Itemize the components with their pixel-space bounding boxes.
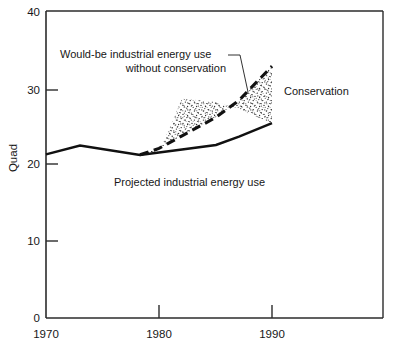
x-tick-label-1990: 1990	[259, 328, 285, 340]
y-axis-title: Quad	[7, 144, 19, 172]
y-tick-label-0: 0	[34, 312, 40, 324]
annotation-conservation-label: Conservation	[284, 85, 349, 97]
x-axis-ticks	[159, 305, 272, 318]
y-axis-ticks	[46, 90, 58, 241]
x-tick-label-1970: 1970	[33, 328, 59, 340]
annotation-projected-label: Projected industrial energy use	[114, 176, 265, 188]
y-axis-tick-labels: 40 30 20 10 0	[27, 6, 40, 324]
would-be-label-line1: Would-be industrial energy use	[60, 48, 211, 60]
y-tick-label-40: 40	[27, 6, 40, 18]
energy-use-area-chart: 40 30 20 10 0 Quad 1970 1980 1990	[0, 0, 399, 351]
would-be-label-line2: without conservation	[125, 62, 226, 74]
annotation-would-be-label: Would-be industrial energy use without c…	[60, 48, 248, 92]
y-tick-label-10: 10	[27, 235, 40, 247]
x-axis-tick-labels: 1970 1980 1990	[33, 328, 285, 340]
y-tick-label-20: 20	[27, 158, 40, 170]
chart-figure: 40 30 20 10 0 Quad 1970 1980 1990	[0, 0, 399, 351]
y-tick-label-30: 30	[27, 84, 40, 96]
x-tick-label-1980: 1980	[146, 328, 172, 340]
would-be-leader-line	[228, 55, 248, 92]
